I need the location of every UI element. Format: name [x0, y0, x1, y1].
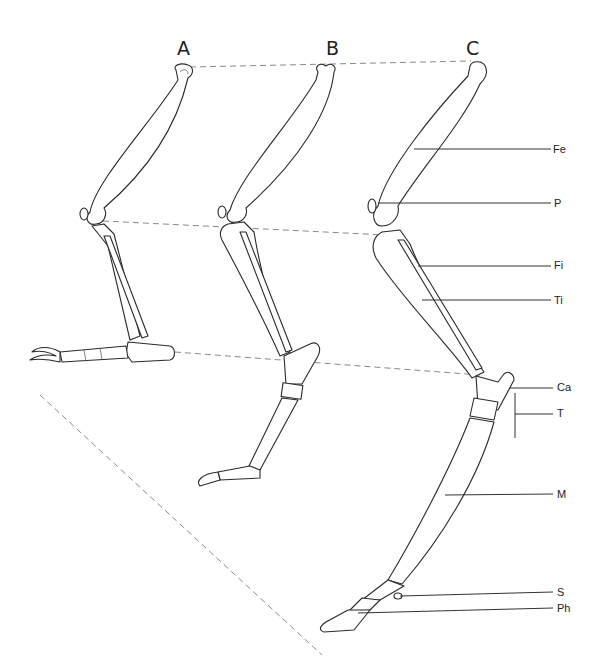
label-sesamoid: S	[557, 586, 564, 598]
label-fibula: Fi	[554, 259, 563, 271]
heading-c: C	[466, 38, 479, 58]
limb-comparison-figure: A B C Fe P Fi Ti Ca T M S Ph	[0, 0, 597, 666]
label-tibia: Ti	[554, 294, 563, 306]
heading-a: A	[177, 38, 190, 58]
limb-b	[199, 64, 336, 486]
heading-b: B	[326, 38, 339, 58]
skeleton-drawing	[0, 0, 597, 666]
label-calcaneus: Ca	[557, 381, 571, 393]
label-patella: P	[554, 197, 561, 209]
label-tarsals: T	[557, 407, 564, 419]
label-femur: Fe	[553, 143, 566, 155]
limb-a	[30, 64, 193, 362]
label-phalanges: Ph	[557, 602, 570, 614]
label-metatarsal: M	[557, 488, 566, 500]
limb-c	[320, 62, 514, 632]
